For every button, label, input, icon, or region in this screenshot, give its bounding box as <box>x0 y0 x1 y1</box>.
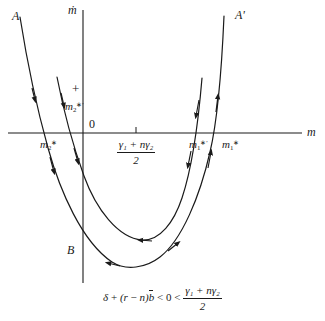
caption-lhs: δ + (r − n)b <box>103 291 154 303</box>
label-m1-star-m: m <box>222 138 230 150</box>
label-point-B: B <box>67 244 74 256</box>
flow-arrows-group <box>32 88 218 266</box>
caption-relation: < 0 < <box>157 291 180 303</box>
label-m1-star-prime-m: m <box>189 138 197 150</box>
label-branch-A: A <box>12 10 19 22</box>
label-m1-star: m1∗ <box>222 139 239 150</box>
caption-fraction-numerator: γ₁ + nγ₂ <box>183 284 222 299</box>
label-branch-A-prime: A' <box>235 9 245 21</box>
label-horizontal-axis-m: m <box>307 126 316 138</box>
arrow-inner-bottom-right <box>140 240 152 241</box>
label-origin-zero: 0 <box>89 118 95 130</box>
label-m1-star-prime-superscript: ∗′ <box>200 139 208 146</box>
midpoint-fraction: γ₁ + nγ₂ 2 <box>117 138 156 166</box>
label-m2-star: m2∗ <box>40 139 57 150</box>
caption-fraction: γ₁ + nγ₂ 2 <box>183 284 222 312</box>
label-m2-star-m: m <box>40 138 48 150</box>
figure-caption: δ + (r − n)b < 0 < γ₁ + nγ₂ 2 <box>0 284 325 312</box>
label-m2-star-superscript: ∗ <box>51 139 57 146</box>
label-m2-star-prime-superscript: ∗′ <box>76 101 84 108</box>
midpoint-fraction-numerator: γ₁ + nγ₂ <box>117 138 156 153</box>
phase-diagram-figure: A A' ṁ m 0 + B m2∗′ m2∗ m1∗′ m1∗ γ₁ + nγ… <box>0 0 325 321</box>
label-m1-star-prime: m1∗′ <box>189 139 208 150</box>
label-m2-star-prime-m: m <box>65 100 73 112</box>
caption-fraction-denominator: 2 <box>183 299 222 313</box>
label-vertical-axis-mdot: ṁ <box>68 4 77 16</box>
label-m2-star-prime: m2∗′ <box>65 101 84 112</box>
label-m1-star-superscript: ∗ <box>233 139 239 146</box>
label-sign-plus: + <box>72 82 79 95</box>
midpoint-fraction-denominator: 2 <box>117 153 156 167</box>
label-midpoint-fraction: γ₁ + nγ₂ 2 <box>104 138 168 166</box>
